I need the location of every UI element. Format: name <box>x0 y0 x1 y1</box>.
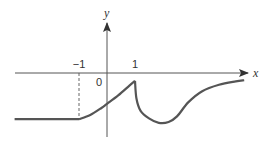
y-axis-label: y <box>103 6 110 20</box>
x-tick-label: 1 <box>132 58 138 70</box>
function-graph: x y 0 −11 <box>0 0 273 146</box>
x-tick-label: −1 <box>73 58 86 70</box>
x-axis-label: x <box>252 66 259 80</box>
origin-label: 0 <box>96 76 102 88</box>
curve-segment <box>135 80 244 123</box>
curve-group <box>15 80 245 123</box>
x-ticks: −11 <box>73 58 138 70</box>
